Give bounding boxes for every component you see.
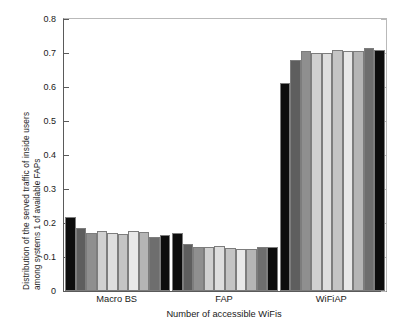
bar[interactable]	[76, 228, 87, 291]
bar[interactable]	[149, 237, 160, 291]
bar[interactable]	[139, 232, 150, 291]
bar[interactable]	[183, 244, 194, 291]
bar[interactable]	[246, 249, 257, 291]
bar-group	[280, 19, 385, 291]
y-tick-label: 0	[51, 286, 56, 296]
bar[interactable]	[322, 53, 333, 291]
y-tick-label: 0.6	[43, 82, 56, 92]
bar[interactable]	[86, 233, 97, 291]
y-tick-label: 0.8	[43, 14, 56, 24]
bar[interactable]	[160, 235, 171, 291]
bar[interactable]	[97, 231, 108, 291]
y-tick-label: 0.1	[43, 252, 56, 262]
x-tick-label: Macro BS	[96, 294, 137, 304]
bar[interactable]	[280, 83, 291, 291]
x-tick-label: FAP	[215, 294, 233, 304]
bar[interactable]	[353, 51, 364, 291]
bar[interactable]	[290, 60, 301, 291]
bar[interactable]	[107, 233, 118, 291]
bar[interactable]	[214, 246, 225, 291]
bar[interactable]	[374, 50, 385, 291]
bar-chart-figure: Distribution of the served traffic of in…	[0, 0, 403, 328]
x-tick-label: WiFiAP	[316, 294, 347, 304]
bar[interactable]	[311, 53, 322, 291]
bar[interactable]	[128, 231, 139, 291]
bar[interactable]	[118, 234, 129, 291]
bar-group	[172, 19, 277, 291]
y-tick-label: 0.4	[43, 150, 56, 160]
bar[interactable]	[267, 247, 278, 291]
bar[interactable]	[172, 233, 183, 291]
y-tick-label: 0.2	[43, 218, 56, 228]
y-tick-label: 0.5	[43, 116, 56, 126]
bar[interactable]	[193, 247, 204, 291]
y-tick-label: 0.3	[43, 184, 56, 194]
y-tick-mark-right	[381, 291, 386, 292]
bar[interactable]	[225, 248, 236, 291]
y-axis-title-line-1: Distribution of the served traffic of in…	[21, 112, 31, 290]
bar[interactable]	[236, 249, 247, 291]
bar[interactable]	[343, 51, 354, 291]
y-tick-mark	[64, 291, 69, 292]
y-axis-title-line-2: among systems 1 of available FAPs	[32, 159, 42, 290]
x-axis-title: Number of accessible WiFis	[166, 309, 281, 319]
bar[interactable]	[301, 51, 312, 291]
plot-area: 00.10.20.30.40.50.60.70.8	[63, 18, 387, 292]
bar[interactable]	[65, 217, 76, 291]
bar-group	[65, 19, 170, 291]
bar[interactable]	[364, 48, 375, 291]
y-tick-label: 0.7	[43, 48, 56, 58]
bar[interactable]	[204, 247, 215, 291]
bar[interactable]	[332, 50, 343, 291]
y-axis-title: Distribution of the served traffic of in…	[0, 0, 40, 296]
bar[interactable]	[257, 247, 268, 291]
